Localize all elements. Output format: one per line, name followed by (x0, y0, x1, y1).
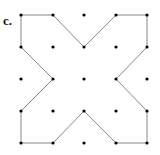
grid-dot (82, 13, 85, 16)
grid-dot (51, 45, 54, 48)
grid-dot (145, 109, 148, 112)
grid-dot (19, 13, 22, 16)
grid-dot (51, 13, 54, 16)
grid-dot (114, 109, 117, 112)
grid-dot (145, 13, 148, 16)
grid-dot (82, 109, 85, 112)
grid-dot (145, 141, 148, 144)
grid-dot (19, 77, 22, 80)
grid-dot (82, 45, 85, 48)
grid-dot (82, 141, 85, 144)
grid-dot (19, 141, 22, 144)
grid-dot (114, 141, 117, 144)
grid-dot (145, 77, 148, 80)
grid-dot (114, 45, 117, 48)
grid-dot (19, 109, 22, 112)
grid-dot (145, 45, 148, 48)
grid-dot (114, 77, 117, 80)
grid-dot (51, 141, 54, 144)
grid-dot (114, 13, 117, 16)
grid-dot (19, 45, 22, 48)
grid-dot (51, 77, 54, 80)
dot-grid-x-shape-diagram (0, 0, 160, 155)
grid-dot (51, 109, 54, 112)
grid-dot (82, 77, 85, 80)
